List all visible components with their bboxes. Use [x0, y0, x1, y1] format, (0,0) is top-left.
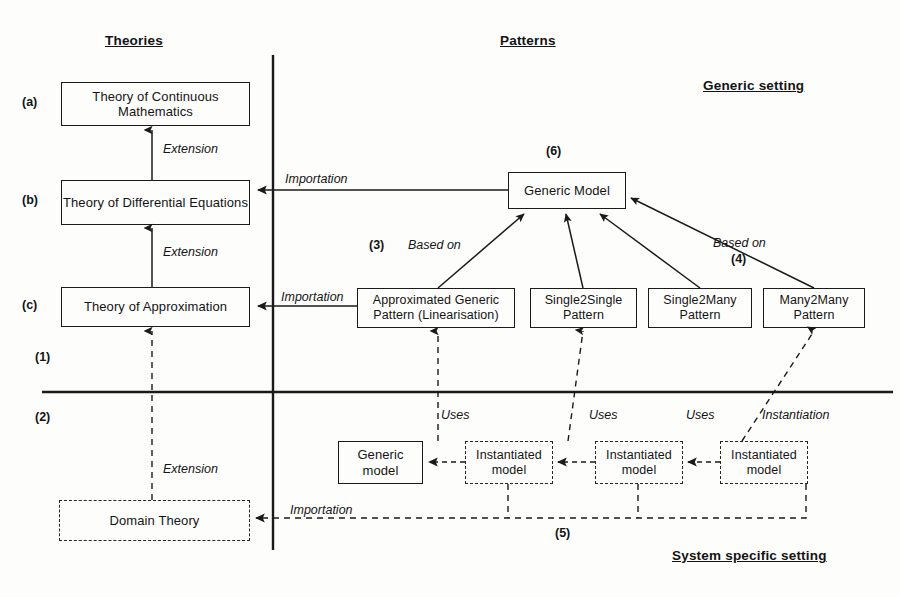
node-theory-of-continuous-mathematics[interactable]: Theory of Continuous Mathematics: [61, 82, 250, 126]
edge-instantiation-many2many: [742, 331, 814, 441]
row-tag-b: (b): [22, 193, 38, 207]
edge-uses-single2single: [568, 331, 583, 441]
node-label: Single2Single Pattern: [531, 293, 636, 323]
heading-theories: Theories: [105, 33, 163, 48]
node-generic-model-instance[interactable]: Generic model: [338, 441, 423, 484]
node-label: Instantiated model: [466, 448, 552, 478]
node-label: Domain Theory: [110, 513, 200, 528]
node-generic-model-pattern[interactable]: Generic Model: [508, 172, 626, 209]
edge-label-extension-c-domain: Extension: [163, 462, 218, 476]
callout-3: (3): [369, 238, 384, 252]
node-label: Approximated Generic Pattern (Linearisat…: [358, 293, 514, 323]
node-theory-of-approximation[interactable]: Theory of Approximation: [61, 287, 250, 327]
row-tag-c: (c): [22, 298, 37, 312]
row-tag-2: (2): [35, 410, 50, 424]
row-tag-a: (a): [22, 95, 37, 109]
node-instantiated-model-3[interactable]: Instantiated model: [720, 441, 808, 484]
node-approximated-generic-pattern[interactable]: Approximated Generic Pattern (Linearisat…: [357, 288, 515, 328]
edge-label-extension-a-b: Extension: [163, 142, 218, 156]
node-instantiated-model-2[interactable]: Instantiated model: [595, 441, 683, 484]
edge-label-importation-domain: Importation: [290, 503, 353, 517]
node-domain-theory[interactable]: Domain Theory: [59, 500, 250, 541]
callout-6: (6): [546, 144, 561, 158]
node-label: Many2Many Pattern: [764, 293, 864, 323]
edge-label-importation-b: Importation: [285, 172, 348, 186]
node-theory-of-differential-equations[interactable]: Theory of Differential Equations: [61, 180, 250, 225]
edge-label-instantiation: Instantiation: [762, 408, 829, 422]
node-single2many-pattern[interactable]: Single2Many Pattern: [648, 288, 752, 328]
node-single2single-pattern[interactable]: Single2Single Pattern: [530, 288, 637, 328]
node-label: Theory of Differential Equations: [63, 195, 248, 210]
diagram-canvas: Theories Patterns Generic setting System…: [0, 0, 900, 597]
edge-label-extension-b-c: Extension: [163, 245, 218, 259]
node-instantiated-model-1[interactable]: Instantiated model: [465, 441, 553, 484]
callout-5: (5): [555, 526, 570, 540]
edge-label-uses-2: Uses: [589, 408, 617, 422]
row-tag-1: (1): [35, 350, 50, 364]
node-label: Instantiated model: [596, 448, 682, 478]
edge-label-based-on-4: Based on: [713, 236, 766, 250]
edge-based-on-single2single: [566, 214, 583, 288]
edge-label-uses-3: Uses: [686, 408, 714, 422]
node-label: Instantiated model: [721, 448, 807, 478]
edge-label-importation-c: Importation: [281, 290, 344, 304]
node-label: Theory of Continuous Mathematics: [62, 89, 249, 120]
node-many2many-pattern[interactable]: Many2Many Pattern: [763, 288, 865, 328]
edge-based-on-single2many: [600, 214, 700, 288]
edge-label-based-on-3: Based on: [408, 238, 461, 252]
node-label: Single2Many Pattern: [649, 293, 751, 323]
heading-system-specific-setting: System specific setting: [672, 548, 827, 563]
node-label: Generic model: [339, 447, 422, 478]
heading-patterns: Patterns: [500, 33, 556, 48]
node-label: Generic Model: [524, 183, 610, 198]
edge-label-uses-1: Uses: [441, 408, 469, 422]
node-label: Theory of Approximation: [84, 299, 227, 314]
callout-4: (4): [731, 252, 746, 266]
heading-generic-setting: Generic setting: [703, 78, 804, 93]
